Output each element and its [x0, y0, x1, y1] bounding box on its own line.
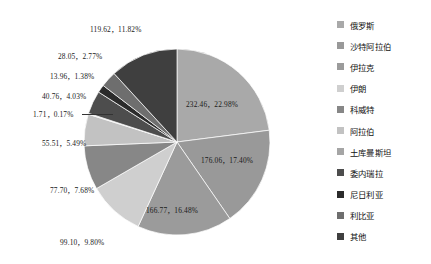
legend-item[interactable]: 伊拉克 [337, 56, 431, 77]
legend-swatch-icon [337, 212, 344, 219]
legend-swatch-icon [337, 191, 344, 198]
legend-label: 土库曼斯坦 [350, 146, 391, 158]
data-label-iran: 99.10，9.80% [60, 238, 104, 247]
data-label-venezuela: 40.76，4.03% [42, 92, 86, 101]
legend-label: 科威特 [350, 103, 375, 115]
chart-legend: 俄罗斯沙特阿拉伯伊拉克伊朗科威特阿拉伯土库曼斯坦委内瑞拉尼日利亚利比亚其他 [337, 14, 431, 247]
data-label-kuwait: 77.70，7.68% [50, 186, 94, 195]
data-label-turkmenistan: 1.71，0.17% [33, 110, 74, 119]
legend-label: 俄罗斯 [350, 19, 375, 31]
leader-line-turkmenistan [82, 114, 113, 115]
legend-label: 利比亚 [350, 209, 375, 221]
legend-label: 沙特阿拉伯 [350, 40, 391, 52]
legend-label: 阿拉伯 [350, 125, 375, 137]
data-label-other: 119.62，11.82% [90, 25, 142, 34]
legend-swatch-icon [337, 106, 344, 113]
legend-item[interactable]: 阿拉伯 [337, 120, 431, 141]
legend-item[interactable]: 俄罗斯 [337, 14, 431, 35]
legend-item[interactable]: 尼日利亚 [337, 184, 431, 205]
legend-label: 其他 [350, 230, 366, 242]
data-label-nigeria: 13.96，1.38% [50, 72, 94, 81]
pie-slice[interactable] [177, 49, 269, 142]
data-label-arab: 55.51，5.49% [42, 139, 86, 148]
legend-item[interactable]: 其他 [337, 226, 431, 247]
legend-item[interactable]: 土库曼斯坦 [337, 141, 431, 162]
legend-item[interactable]: 利比亚 [337, 205, 431, 226]
legend-swatch-icon [337, 85, 344, 92]
legend-swatch-icon [337, 21, 344, 28]
legend-swatch-icon [337, 127, 344, 134]
legend-item[interactable]: 科威特 [337, 99, 431, 120]
legend-swatch-icon [337, 233, 344, 240]
chart-root: 232.46，22.98% 176.06，17.40% 166.77，16.48… [0, 0, 431, 264]
legend-swatch-icon [337, 63, 344, 70]
data-label-libya: 28.05，2.77% [58, 52, 102, 61]
legend-swatch-icon [337, 42, 344, 49]
data-label-russia: 232.46，22.98% [186, 100, 238, 109]
legend-item[interactable]: 沙特阿拉伯 [337, 35, 431, 56]
pie-chart-area: 232.46，22.98% 176.06，17.40% 166.77，16.48… [0, 0, 310, 264]
legend-label: 伊朗 [350, 82, 366, 94]
legend-label: 尼日利亚 [350, 188, 383, 200]
legend-label: 伊拉克 [350, 61, 375, 73]
legend-item[interactable]: 伊朗 [337, 78, 431, 99]
legend-swatch-icon [337, 148, 344, 155]
data-label-iraq: 166.77，16.48% [146, 206, 198, 215]
data-label-saudi: 176.06，17.40% [201, 156, 253, 165]
pie-chart-svg[interactable] [0, 0, 310, 264]
legend-label: 委内瑞拉 [350, 167, 383, 179]
legend-swatch-icon [337, 169, 344, 176]
legend-item[interactable]: 委内瑞拉 [337, 162, 431, 183]
